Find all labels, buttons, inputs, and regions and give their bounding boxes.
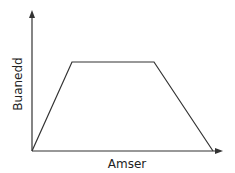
y-axis-arrow-icon [29,10,35,18]
x-axis-label: Amser [108,157,147,171]
speed-time-chart: Amser Buanedd [0,0,235,173]
data-line [32,62,213,151]
y-axis-label: Buanedd [11,57,25,110]
x-axis-arrow-icon [215,148,223,154]
